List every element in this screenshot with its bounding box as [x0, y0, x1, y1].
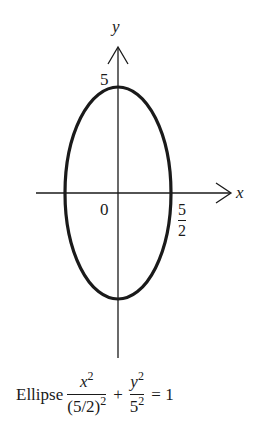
term1-num-var: x	[80, 372, 88, 391]
term1-fraction: x2 (5/2)2	[67, 372, 106, 417]
fraction-bar	[178, 220, 186, 221]
term1-numerator: x2	[80, 372, 94, 392]
term1-denominator: (5/2)2	[67, 397, 106, 417]
caption-word: Ellipse	[16, 385, 63, 405]
equals-one: = 1	[151, 385, 173, 405]
y-intercept-label: 5	[100, 71, 109, 88]
term2-num-exp: 2	[138, 369, 144, 383]
term1-den-exp: 2	[100, 394, 106, 408]
plus-sign: +	[113, 385, 123, 405]
x-intercept-numerator: 5	[178, 202, 186, 218]
term2-num-var: y	[130, 372, 138, 391]
origin-label: 0	[100, 201, 109, 218]
x-intercept-denominator: 2	[178, 223, 186, 239]
term2-denominator: 52	[130, 397, 145, 417]
term1-den-base: (5/2)	[67, 397, 100, 416]
y-axis-label: y	[112, 18, 120, 35]
term2-den-exp: 2	[138, 394, 144, 408]
ellipse-equation-caption: Ellipse x2 (5/2)2 + y2 52 = 1	[16, 372, 177, 417]
term2-numerator: y2	[130, 372, 144, 392]
term1-num-exp: 2	[88, 369, 94, 383]
ellipse-plot	[0, 0, 260, 435]
x-axis-label: x	[236, 184, 244, 201]
term2-fraction: y2 52	[130, 372, 145, 417]
x-intercept-fraction: 5 2	[178, 202, 186, 239]
